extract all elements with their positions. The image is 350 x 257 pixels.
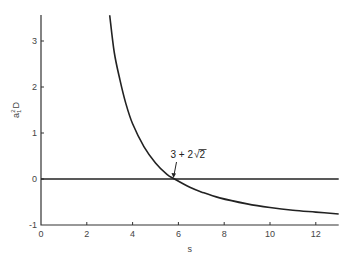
x-tick-label: 0 <box>38 229 43 239</box>
x-tick-label: 12 <box>311 229 321 239</box>
x-tick-label: 4 <box>130 229 135 239</box>
x-tick-label: 2 <box>84 229 89 239</box>
y-tick-label: 2 <box>32 82 37 92</box>
y-tick-label: -1 <box>29 220 37 230</box>
x-tick-label: 8 <box>222 229 227 239</box>
x-tick-label: 10 <box>265 229 275 239</box>
y-tick-label: 0 <box>32 174 37 184</box>
chart: 024681012-10123 3 + 2√2 s a12D <box>0 0 350 257</box>
tick-marks <box>41 41 316 225</box>
y-tick-label: 1 <box>32 128 37 138</box>
annotation-arrow <box>174 162 177 175</box>
x-tick-label: 6 <box>176 229 181 239</box>
y-axis-label: a12D <box>10 101 22 118</box>
annotation-label: 3 + 2√2 <box>171 149 206 160</box>
axes <box>41 15 339 225</box>
data-curve <box>110 15 339 214</box>
y-tick-label: 3 <box>32 36 37 46</box>
x-axis-label: s <box>188 244 193 254</box>
root-annotation: 3 + 2√2 <box>171 149 207 178</box>
